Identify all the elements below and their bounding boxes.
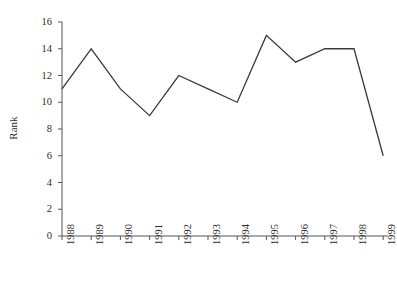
axes <box>58 22 388 240</box>
y-axis-ticks <box>58 22 62 236</box>
rank-data-line <box>62 35 383 155</box>
x-axis-ticks <box>62 236 383 240</box>
